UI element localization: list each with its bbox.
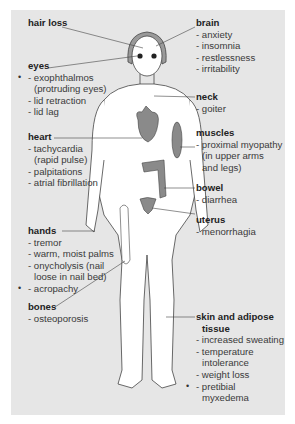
label-brain: brain - anxiety - insomnia - restlessnes… [196, 17, 255, 75]
label-skin: skin and adipose tissue - increased swea… [196, 311, 284, 404]
label-bowel: bowel - diarrhea [196, 182, 237, 205]
label-neck: neck - goiter [196, 91, 226, 114]
label-uterus: uterus - menorrhagia [196, 214, 256, 237]
label-bones: bones - osteoporosis [28, 301, 88, 324]
label-hair-loss: hair loss [28, 17, 67, 29]
bullet-icon: • [18, 283, 21, 295]
bullet-icon: • [18, 72, 21, 84]
muscle-organ [172, 122, 182, 158]
label-muscles: muscles - proximal myopathy (in upper ar… [196, 127, 282, 173]
label-eyes: eyes •- exophthalmos (protruding eyes) -… [28, 60, 107, 118]
label-hands: hands - tremor - warm, moist palms - ony… [28, 225, 114, 295]
bullet-icon: • [186, 381, 189, 393]
label-heart: heart - tachycardia (rapid pulse) - palp… [28, 131, 98, 189]
